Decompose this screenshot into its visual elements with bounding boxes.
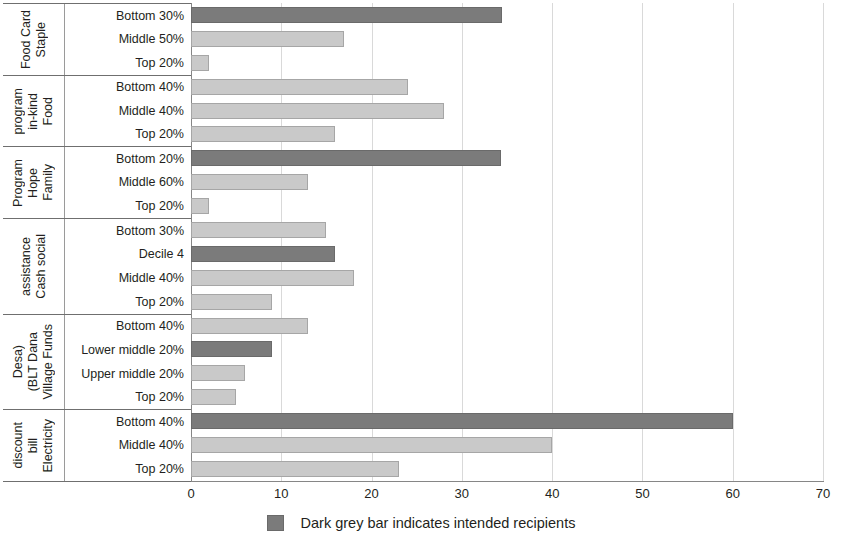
bar-3-3	[191, 294, 272, 310]
group-title-line: Desa)	[11, 345, 26, 378]
gridline-70	[823, 3, 824, 481]
category-group: Village Funds(BLT DanaDesa)Bottom 40%Low…	[3, 314, 191, 410]
group-title-line: Hope	[26, 168, 41, 198]
bar-row	[191, 3, 823, 27]
group-title-line: Food	[41, 97, 56, 126]
bar-series	[191, 3, 823, 481]
group-title-line: assistance	[19, 237, 34, 296]
subgroup-label: Decile 4	[65, 243, 191, 267]
subgroup-label: Top 20%	[65, 386, 191, 410]
subgroup-label: Top 20%	[65, 290, 191, 314]
bar-4-0	[191, 318, 308, 334]
subgroup-label: Upper middle 20%	[65, 362, 191, 386]
subgroup-label: Top 20%	[65, 123, 191, 147]
group-title-line: Staple	[34, 22, 49, 57]
category-group: Cash socialassistanceBottom 30%Decile 4M…	[3, 218, 191, 314]
subgroup-label: Bottom 30%	[65, 219, 191, 243]
group-title-line: Cash social	[34, 234, 49, 299]
subgroup-labels: Bottom 20%Middle 60%Top 20%	[65, 147, 191, 218]
bar-row	[191, 194, 823, 218]
group-title: StapleFood Card	[3, 4, 65, 75]
group-title-line: in-kind	[26, 93, 41, 130]
subgroup-label: Middle 40%	[65, 434, 191, 458]
subgroup-label: Middle 40%	[65, 266, 191, 290]
plot-area	[191, 3, 823, 481]
subgroup-labels: Bottom 40%Middle 40%Top 20%	[65, 76, 191, 147]
bar-5-1	[191, 437, 552, 453]
group-title-line: program	[11, 88, 26, 135]
subgroup-label: Middle 50%	[65, 28, 191, 52]
x-tick-20: 20	[364, 486, 378, 501]
bar-row	[191, 409, 823, 433]
bar-0-1	[191, 31, 344, 47]
bar-row	[191, 361, 823, 385]
subgroup-labels: Bottom 40%Middle 40%Top 20%	[65, 410, 191, 481]
group-title-line: Food Card	[19, 10, 34, 69]
bar-3-1	[191, 246, 335, 262]
group-title-line: Family	[41, 164, 56, 201]
subgroup-label: Top 20%	[65, 51, 191, 75]
x-tick-0: 0	[187, 486, 194, 501]
bar-row	[191, 75, 823, 99]
bar-2-1	[191, 174, 308, 190]
bar-1-0	[191, 79, 408, 95]
bar-2-2	[191, 198, 209, 214]
bar-row	[191, 290, 823, 314]
group-title: Village Funds(BLT DanaDesa)	[3, 315, 65, 410]
bar-row	[191, 51, 823, 75]
subgroup-labels: Bottom 30%Middle 50%Top 20%	[65, 4, 191, 75]
category-group: FamilyHopeProgramBottom 20%Middle 60%Top…	[3, 146, 191, 218]
group-title-line: Program	[11, 159, 26, 207]
chart-root: StapleFood CardBottom 30%Middle 50%Top 2…	[0, 0, 842, 554]
subgroup-label: Top 20%	[65, 195, 191, 219]
bar-row	[191, 337, 823, 361]
bar-1-2	[191, 126, 335, 142]
bar-row	[191, 457, 823, 481]
bar-row	[191, 266, 823, 290]
bar-row	[191, 146, 823, 170]
bar-0-2	[191, 55, 209, 71]
bar-row	[191, 218, 823, 242]
x-tick-70: 70	[816, 486, 830, 501]
subgroup-label: Middle 40%	[65, 99, 191, 123]
x-tick-10: 10	[274, 486, 288, 501]
subgroup-labels: Bottom 30%Decile 4Middle 40%Top 20%	[65, 219, 191, 314]
subgroup-label: Bottom 40%	[65, 410, 191, 434]
x-tick-40: 40	[545, 486, 559, 501]
group-title-line: (BLT Dana	[26, 332, 41, 391]
bar-row	[191, 99, 823, 123]
category-label-column: StapleFood CardBottom 30%Middle 50%Top 2…	[3, 3, 191, 481]
category-group: Foodin-kindprogramBottom 40%Middle 40%To…	[3, 75, 191, 147]
bar-1-1	[191, 103, 444, 119]
subgroup-label: Middle 60%	[65, 171, 191, 195]
bar-4-1	[191, 341, 272, 357]
subgroup-label: Top 20%	[65, 457, 191, 481]
x-tick-60: 60	[725, 486, 739, 501]
legend-label: Dark grey bar indicates intended recipie…	[301, 515, 576, 531]
bar-row	[191, 122, 823, 146]
subgroup-label: Bottom 30%	[65, 4, 191, 28]
x-tick-30: 30	[455, 486, 469, 501]
bar-row	[191, 314, 823, 338]
x-tick-50: 50	[635, 486, 649, 501]
subgroup-labels: Bottom 40%Lower middle 20%Upper middle 2…	[65, 315, 191, 410]
bar-row	[191, 433, 823, 457]
bar-0-0	[191, 7, 502, 23]
chart-legend: Dark grey bar indicates intended recipie…	[0, 515, 842, 531]
group-title: Foodin-kindprogram	[3, 76, 65, 147]
bar-5-2	[191, 461, 399, 477]
bar-3-2	[191, 270, 354, 286]
bar-5-0	[191, 413, 733, 429]
group-title-line: discount	[11, 422, 26, 469]
bar-row	[191, 27, 823, 51]
x-axis-tick-labels: 010203040506070	[191, 486, 823, 508]
bar-row	[191, 170, 823, 194]
subgroup-label: Bottom 20%	[65, 147, 191, 171]
group-title-line: bill	[26, 438, 41, 453]
group-title: Electricitybilldiscount	[3, 410, 65, 481]
category-group: StapleFood CardBottom 30%Middle 50%Top 2…	[3, 3, 191, 75]
subgroup-label: Bottom 40%	[65, 315, 191, 339]
bar-row	[191, 385, 823, 409]
x-axis-line	[191, 481, 824, 482]
bar-4-3	[191, 389, 236, 405]
